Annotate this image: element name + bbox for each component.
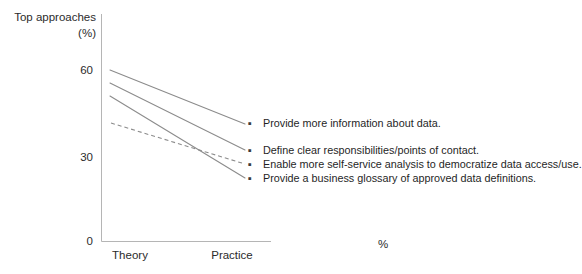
series-annotation: ▪ Provide a business glossary of approve… <box>248 172 536 185</box>
series-line-1 <box>110 83 245 150</box>
bullet-icon: ▪ <box>248 172 263 185</box>
bullet-icon: ▪ <box>248 158 263 171</box>
bullet-icon: ▪ <box>248 117 263 130</box>
series-annotation-label: Enable more self-service analysis to dem… <box>263 158 582 171</box>
series-annotation-label: Provide a business glossary of approved … <box>263 172 536 185</box>
series-line-2 <box>111 123 245 164</box>
y-tick-label-30: 30 <box>63 151 93 163</box>
y-axis-title-line-1: Top approaches <box>0 10 96 24</box>
series-line-3 <box>110 96 245 178</box>
y-tick-label-60: 60 <box>63 64 93 76</box>
series-annotation: ▪ Enable more self-service analysis to d… <box>248 158 582 171</box>
x-tick-label-practice: Practice <box>197 249 267 262</box>
y-tick-label-0: 0 <box>63 235 93 247</box>
series-annotation-label: Provide more information about data. <box>263 117 441 130</box>
x-axis-label-percent: % <box>378 238 388 251</box>
x-tick-label-theory: Theory <box>95 249 165 262</box>
series-annotation: ▪ Define clear responsibilities/points o… <box>248 144 479 157</box>
series-annotation-label: Define clear responsibilities/points of … <box>263 144 479 157</box>
series-annotation: ▪ Provide more information about data. <box>248 117 441 130</box>
y-axis-title-line-2: (%) <box>0 26 96 40</box>
bullet-icon: ▪ <box>248 144 263 157</box>
